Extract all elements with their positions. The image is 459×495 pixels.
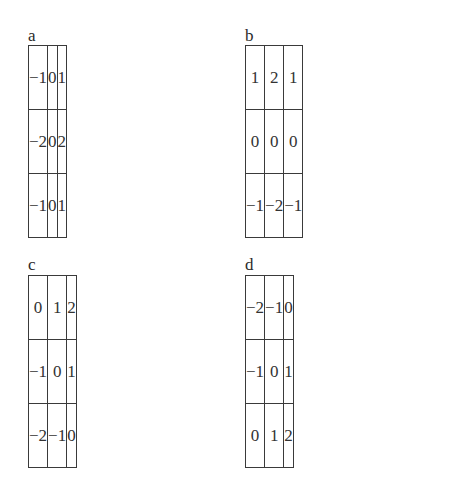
grid-cell: 1 bbox=[284, 340, 294, 404]
grid-cell: 0 bbox=[284, 110, 303, 174]
panel-label: a bbox=[28, 27, 36, 44]
grid-cell: 0 bbox=[48, 340, 67, 404]
grid-cell: −1 bbox=[265, 276, 284, 340]
grid-cell: 0 bbox=[48, 110, 58, 174]
panel-label: d bbox=[245, 256, 254, 273]
grid-cell: −2 bbox=[29, 110, 48, 174]
grid-cell: 1 bbox=[284, 46, 303, 110]
grid-cell: 2 bbox=[67, 276, 77, 340]
panel-label: c bbox=[28, 256, 36, 273]
grid-cell: 1 bbox=[265, 404, 284, 468]
grid-cell: 0 bbox=[246, 110, 265, 174]
grid-cell: 2 bbox=[284, 404, 294, 468]
grid-cell: 2 bbox=[57, 110, 67, 174]
grid-cell: −1 bbox=[29, 46, 48, 110]
grid-cell: −1 bbox=[29, 340, 48, 404]
grid-cell: 0 bbox=[265, 110, 284, 174]
kernel-grid: −2 −1 0 −1 0 1 0 1 2 bbox=[245, 275, 294, 468]
grid-cell: 0 bbox=[48, 46, 58, 110]
grid-cell: 1 bbox=[57, 174, 67, 238]
grid-cell: −1 bbox=[29, 174, 48, 238]
panel-label: b bbox=[245, 27, 254, 44]
grid-cell: 1 bbox=[67, 340, 77, 404]
grid-cell: −2 bbox=[29, 404, 48, 468]
kernel-grid: 1 2 1 0 0 0 −1 −2 −1 bbox=[245, 45, 303, 238]
grid-cell: −1 bbox=[246, 174, 265, 238]
grid-cell: 1 bbox=[57, 46, 67, 110]
grid-cell: −2 bbox=[246, 276, 265, 340]
grid-cell: 0 bbox=[29, 276, 48, 340]
grid-cell: 1 bbox=[246, 46, 265, 110]
grid-cell: 1 bbox=[48, 276, 67, 340]
grid-cell: 2 bbox=[265, 46, 284, 110]
grid-cell: 0 bbox=[67, 404, 77, 468]
kernel-grid: 0 1 2 −1 0 1 −2 −1 0 bbox=[28, 275, 77, 468]
grid-cell: −2 bbox=[265, 174, 284, 238]
grid-cell: 0 bbox=[265, 340, 284, 404]
kernel-grid: −1 0 1 −2 0 2 −1 0 1 bbox=[28, 45, 67, 238]
grid-cell: −1 bbox=[48, 404, 67, 468]
grid-cell: 0 bbox=[284, 276, 294, 340]
grid-cell: −1 bbox=[284, 174, 303, 238]
grid-cell: −1 bbox=[246, 340, 265, 404]
grid-cell: 0 bbox=[48, 174, 58, 238]
grid-cell: 0 bbox=[246, 404, 265, 468]
